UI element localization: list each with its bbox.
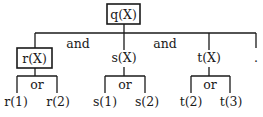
root-label: q(X) (110, 7, 137, 22)
t-or-label: or (203, 77, 217, 92)
and-label-2: and (153, 36, 177, 51)
r-leaf-1: r(1) (4, 94, 28, 109)
and-or-tree: q(X) and and r(X) or r(1) r(2) s(X) or s… (0, 0, 263, 117)
t-leaf-2: t(3) (220, 94, 243, 109)
r-leaf-2: r(2) (46, 94, 70, 109)
r-or-label: or (30, 77, 44, 92)
s-or-label: or (118, 77, 132, 92)
continuation-dot: . (254, 50, 258, 65)
s-label: s(X) (111, 50, 136, 65)
and-label-1: and (66, 36, 90, 51)
r-label: r(X) (22, 51, 47, 66)
s-leaf-1: s(1) (93, 94, 117, 109)
s-leaf-2: s(2) (135, 94, 159, 109)
t-leaf-1: t(2) (180, 94, 203, 109)
t-label: t(X) (197, 50, 221, 65)
